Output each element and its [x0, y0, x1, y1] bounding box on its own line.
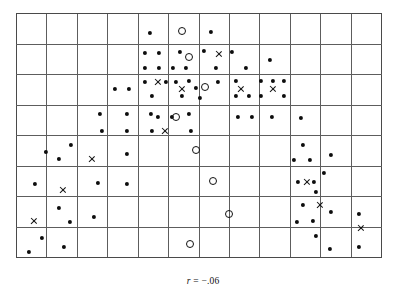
grid-line-horizontal [16, 105, 382, 106]
data-point-dot [92, 215, 96, 219]
data-point-dot [295, 220, 299, 224]
caption-r-value: = −.06 [191, 276, 220, 286]
data-point-dot [259, 79, 263, 83]
data-point-dot [209, 30, 213, 34]
data-point-dot [329, 153, 333, 157]
data-point-cross [237, 85, 245, 93]
data-point-dot [150, 129, 154, 133]
data-point-dot [268, 58, 272, 62]
data-point-open-circle [192, 146, 200, 154]
data-point-dot [40, 236, 44, 240]
data-point-dot [184, 66, 188, 70]
data-point-dot [216, 80, 220, 84]
data-point-dot [312, 180, 316, 184]
grid-line-horizontal [16, 44, 382, 45]
data-point-dot [143, 80, 147, 84]
data-point-dot [187, 79, 191, 83]
data-point-dot [234, 94, 238, 98]
data-point-dot [247, 94, 251, 98]
data-point-dot [127, 87, 131, 91]
data-point-dot [322, 171, 326, 175]
data-point-dot [292, 158, 296, 162]
data-point-dot [329, 210, 333, 214]
data-point-dot [69, 143, 73, 147]
data-point-dot [156, 115, 160, 119]
data-point-dot [189, 129, 193, 133]
grid-line-horizontal [16, 227, 382, 228]
data-point-dot [301, 143, 305, 147]
data-point-open-circle [186, 240, 194, 248]
data-point-dot [143, 66, 147, 70]
data-point-dot [178, 50, 182, 54]
data-point-dot [194, 86, 198, 90]
data-point-dot [27, 250, 31, 254]
data-point-dot [271, 79, 275, 83]
data-point-cross [178, 85, 186, 93]
data-point-dot [125, 112, 129, 116]
grid-line-horizontal [16, 166, 382, 167]
data-point-cross [303, 178, 311, 186]
data-point-cross [59, 186, 67, 194]
data-point-dot [282, 94, 286, 98]
data-point-dot [157, 51, 161, 55]
data-point-dot [125, 129, 129, 133]
data-point-dot [244, 66, 248, 70]
data-point-dot [98, 112, 102, 116]
data-point-dot [150, 94, 154, 98]
data-point-cross [357, 224, 365, 232]
data-point-dot [328, 247, 332, 251]
data-point-open-circle [178, 27, 186, 35]
data-point-cross [215, 50, 223, 58]
data-point-cross [161, 127, 169, 135]
data-point-dot [57, 157, 61, 161]
data-point-dot [100, 129, 104, 133]
data-point-dot [236, 115, 240, 119]
data-point-dot [180, 94, 184, 98]
data-point-dot [234, 79, 238, 83]
data-point-dot [299, 116, 303, 120]
data-point-open-circle [185, 53, 193, 61]
data-point-dot [44, 150, 48, 154]
data-point-dot [68, 220, 72, 224]
data-point-dot [250, 115, 254, 119]
grid-line-horizontal [16, 135, 382, 136]
data-point-dot [143, 51, 147, 55]
data-point-dot [113, 87, 117, 91]
data-point-dot [202, 49, 206, 53]
data-point-dot [357, 245, 361, 249]
data-point-dot [125, 182, 129, 186]
data-point-dot [62, 245, 66, 249]
data-point-open-circle [201, 83, 209, 91]
data-point-cross [269, 85, 277, 93]
data-point-dot [171, 66, 175, 70]
data-point-dot [230, 50, 234, 54]
data-point-dot [57, 206, 61, 210]
data-point-dot [314, 234, 318, 238]
data-point-dot [301, 203, 305, 207]
data-point-cross [30, 217, 38, 225]
data-point-open-circle [225, 210, 233, 218]
data-point-dot [125, 152, 129, 156]
data-point-dot [157, 66, 161, 70]
data-point-open-circle [209, 177, 217, 185]
grid-border-horizontal [16, 257, 382, 258]
data-point-dot [296, 180, 300, 184]
data-point-dot [311, 219, 315, 223]
grid-line-horizontal [16, 196, 382, 197]
data-point-dot [174, 80, 178, 84]
data-point-open-circle [172, 113, 180, 121]
data-point-dot [282, 79, 286, 83]
grid-border-horizontal [16, 13, 382, 14]
data-point-dot [214, 66, 218, 70]
data-point-dot [148, 31, 152, 35]
plot-grid-area [16, 13, 381, 257]
data-point-dot [33, 182, 37, 186]
correlation-caption: r = −.06 [0, 266, 396, 288]
data-point-dot [198, 96, 202, 100]
data-point-dot [314, 190, 318, 194]
data-point-dot [270, 115, 274, 119]
data-point-cross [316, 201, 324, 209]
data-point-dot [259, 94, 263, 98]
data-point-cross [154, 78, 162, 86]
